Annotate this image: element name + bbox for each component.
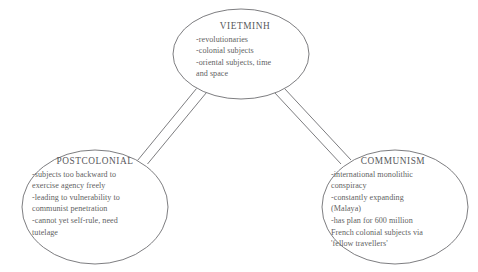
node-vietminh: VIETMINH -revolutionaries -colonial subj… <box>196 21 294 80</box>
node-line: -constantly expanding <box>331 192 455 204</box>
node-line: -international monolithic <box>331 169 455 181</box>
node-line: communist penetration <box>32 203 158 215</box>
node-line: French colonial subjects via <box>331 227 455 239</box>
node-line: 'fellow travellers' <box>331 238 455 250</box>
node-postcolonial-lines: -subjects too backward to exercise agenc… <box>32 169 158 239</box>
node-line: -subjects too backward to <box>32 169 158 181</box>
node-line: exercise agency freely <box>32 180 158 192</box>
node-line: -has plan for 600 million <box>331 215 455 227</box>
node-vietminh-title: VIETMINH <box>196 21 294 33</box>
node-communism: COMMUNISM -international monolithic cons… <box>331 156 455 250</box>
node-line: tutelage <box>32 227 158 239</box>
node-line: (Malaya) <box>331 203 455 215</box>
node-communism-title: COMMUNISM <box>331 156 455 168</box>
node-line: conspiracy <box>331 180 455 192</box>
node-line: -cannot yet self-rule, need <box>32 215 158 227</box>
connector-vietminh-postcolonial <box>138 89 207 165</box>
connector-vietminh-communism <box>275 89 352 165</box>
node-line: -oriental subjects, time <box>196 57 294 69</box>
node-line: and space <box>196 68 294 80</box>
node-line: -colonial subjects <box>196 45 294 57</box>
node-line: -leading to vulnerability to <box>32 192 158 204</box>
diagram-canvas: VIETMINH -revolutionaries -colonial subj… <box>0 0 478 272</box>
node-postcolonial: POSTCOLONIAL -subjects too backward to e… <box>32 156 158 238</box>
node-communism-lines: -international monolithic conspiracy -co… <box>331 169 455 250</box>
node-line: -revolutionaries <box>196 34 294 46</box>
node-vietminh-lines: -revolutionaries -colonial subjects -ori… <box>196 34 294 80</box>
node-postcolonial-title: POSTCOLONIAL <box>32 156 158 168</box>
